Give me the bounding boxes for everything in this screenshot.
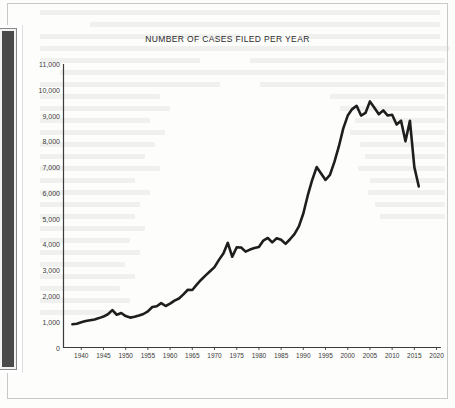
x-tick-label: 1960 — [163, 352, 177, 359]
y-axis-tick-labels: 01,0002,0003,0004,0005,0006,0007,0008,00… — [22, 0, 60, 408]
x-tick-label: 2015 — [407, 352, 421, 359]
y-tick-label: 7,000 — [26, 164, 60, 171]
chart-figure: NUMBER OF CASES FILED PER YEAR 01,0002,0… — [0, 0, 455, 408]
x-tick-label: 1950 — [118, 352, 132, 359]
y-tick-label: 5,000 — [26, 215, 60, 222]
x-tick-label: 2000 — [341, 352, 355, 359]
x-tick-label: 1965 — [185, 352, 199, 359]
y-tick-label: 3,000 — [26, 267, 60, 274]
y-tick-label: 9,000 — [26, 112, 60, 119]
y-tick-label: 4,000 — [26, 241, 60, 248]
chart-plot-svg — [0, 0, 455, 408]
y-tick-label: 10,000 — [26, 86, 60, 93]
x-tick-label: 1955 — [141, 352, 155, 359]
x-tick-label: 1980 — [252, 352, 266, 359]
x-tick-label: 1970 — [207, 352, 221, 359]
x-tick-label: 1940 — [74, 352, 88, 359]
y-tick-label: 11,000 — [26, 61, 60, 68]
x-tick-label: 1990 — [296, 352, 310, 359]
x-tick-label: 1995 — [318, 352, 332, 359]
x-tick-label: 1945 — [96, 352, 110, 359]
y-tick-label: 8,000 — [26, 138, 60, 145]
chart-axes — [63, 64, 441, 348]
y-tick-label: 0 — [26, 344, 60, 351]
x-tick-label: 1975 — [229, 352, 243, 359]
x-tick-label: 2005 — [363, 352, 377, 359]
scanned-page: NUMBER OF CASES FILED PER YEAR 01,0002,0… — [0, 0, 455, 408]
x-tick-label: 2010 — [385, 352, 399, 359]
data-series-line — [72, 101, 418, 324]
x-tick-label: 2020 — [429, 352, 443, 359]
x-tick-label: 1985 — [274, 352, 288, 359]
y-tick-label: 2,000 — [26, 292, 60, 299]
y-tick-label: 6,000 — [26, 189, 60, 196]
y-tick-label: 1,000 — [26, 318, 60, 325]
